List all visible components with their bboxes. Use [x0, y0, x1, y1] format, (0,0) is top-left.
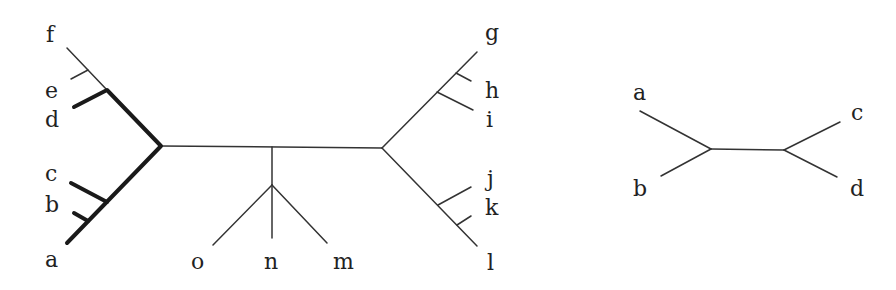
leaf-label-a: a [45, 247, 58, 272]
edge-to-m [272, 185, 327, 243]
highlighted-path [67, 90, 161, 243]
leaf-label-c: c [45, 161, 57, 186]
leaf-label-l: l [487, 250, 494, 275]
edge-to-c [71, 183, 107, 202]
quartet-edge-b [661, 149, 711, 176]
edge-to-o [213, 185, 272, 245]
edge-to-i [437, 92, 473, 110]
quartet-edge-c [784, 122, 840, 150]
quartet-label-a: a [633, 80, 646, 105]
edge-to-k [457, 216, 471, 225]
edge-to-b [74, 213, 88, 221]
quartet-central-edge [711, 149, 784, 150]
quartet-label-c: c [851, 100, 863, 125]
edge-to-f [67, 48, 107, 90]
leaf-label-f: f [46, 22, 56, 47]
edge-to-e [71, 70, 88, 79]
leaf-label-j: j [484, 166, 494, 191]
leaf-label-b: b [45, 192, 59, 217]
edge-to-h [456, 73, 471, 81]
quartet-label-d: d [850, 176, 864, 201]
quartet-edge-a [640, 111, 711, 149]
leaf-label-d: d [45, 107, 59, 132]
leaf-label-i: i [486, 107, 493, 132]
edge-to-l [382, 148, 477, 246]
quartet-edge-d [784, 150, 837, 177]
leaf-label-e: e [45, 78, 58, 103]
quartet-label-b: b [633, 176, 647, 201]
edge-to-g [382, 52, 477, 148]
leaf-label-g: g [485, 20, 499, 45]
leaf-label-k: k [485, 195, 499, 220]
leaf-label-o: o [191, 249, 204, 274]
leaf-label-h: h [485, 78, 499, 103]
leaf-label-m: m [333, 249, 354, 274]
leaf-label-n: n [264, 249, 278, 274]
large-unrooted-tree: f e d c b a o n m g h i j k l [45, 20, 499, 275]
edge-to-j [438, 187, 471, 205]
small-quartet-tree: a b c d [633, 80, 864, 201]
phylogenetic-diagram: f e d c b a o n m g h i j k l a b c d [0, 0, 896, 290]
